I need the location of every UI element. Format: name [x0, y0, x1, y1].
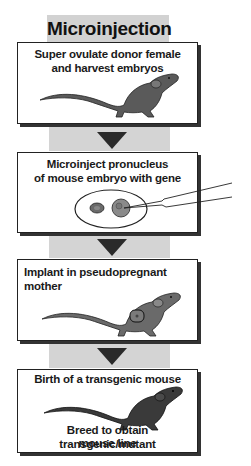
step-3-line-1: Implant in pseudopregnant mother — [24, 265, 197, 293]
step-1-line-1: Super ovulate donor female — [18, 47, 197, 61]
mouse-icon — [38, 71, 188, 121]
step-1-box: Super ovulate donor female and harvest e… — [17, 42, 198, 124]
step-2-line-1: Microinject pronucleus — [18, 157, 197, 171]
step-4-box: Birth of a transgenic mouse Breed to obt… — [17, 369, 198, 453]
down-arrow-icon — [97, 348, 127, 365]
down-arrow-icon — [97, 132, 127, 149]
pregnant-mouse-icon — [40, 290, 190, 340]
diagram-title: Microinjection — [47, 15, 169, 43]
step-3-box: Implant in pseudopregnant mother — [17, 259, 198, 341]
embryo-injection-icon — [74, 175, 234, 231]
step-4-footer-line-2: mouse line — [18, 436, 197, 450]
down-arrow-icon — [97, 239, 127, 256]
